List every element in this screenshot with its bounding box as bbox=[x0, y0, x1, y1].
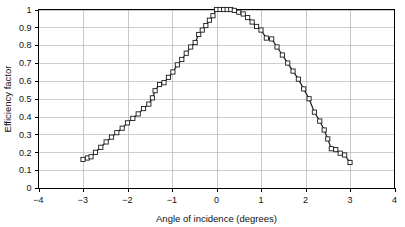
data-point-marker bbox=[153, 89, 157, 93]
data-point-marker bbox=[93, 150, 97, 154]
data-point-marker bbox=[343, 153, 347, 157]
data-point-marker bbox=[291, 69, 295, 73]
data-point-marker bbox=[141, 106, 145, 110]
data-point-marker bbox=[348, 160, 352, 164]
data-point-marker bbox=[175, 63, 179, 67]
y-tick-label: 0.3 bbox=[19, 130, 32, 140]
data-point-marker bbox=[204, 23, 208, 27]
data-point-marker bbox=[302, 87, 306, 91]
data-point-marker bbox=[89, 155, 93, 159]
chart-background bbox=[0, 0, 405, 227]
data-point-marker bbox=[120, 126, 124, 130]
data-point-marker bbox=[162, 81, 166, 85]
data-point-marker bbox=[166, 75, 170, 79]
data-point-marker bbox=[307, 97, 311, 101]
x-tick-label: −4 bbox=[33, 195, 43, 205]
y-tick-label: 0.9 bbox=[19, 23, 32, 33]
y-axis-title: Efficiency factor bbox=[2, 66, 13, 133]
x-tick-label: −1 bbox=[167, 195, 177, 205]
data-point-marker bbox=[189, 45, 193, 49]
data-point-marker bbox=[254, 24, 258, 28]
data-point-marker bbox=[237, 10, 241, 14]
chart-figure: 00.10.20.30.40.50.60.70.80.91 −4−3−2−101… bbox=[0, 0, 405, 227]
y-tick-label: 0.7 bbox=[19, 58, 32, 68]
data-point-marker bbox=[136, 112, 140, 116]
data-point-marker bbox=[259, 28, 263, 32]
data-point-marker bbox=[318, 119, 322, 123]
data-point-marker bbox=[296, 77, 300, 81]
data-point-marker bbox=[275, 45, 279, 49]
data-point-marker bbox=[322, 128, 326, 132]
data-point-marker bbox=[312, 110, 316, 114]
y-tick-label: 0.4 bbox=[19, 112, 32, 122]
data-point-marker bbox=[125, 121, 129, 125]
x-tick-label: 2 bbox=[303, 195, 308, 205]
data-point-marker bbox=[270, 37, 274, 41]
x-tick-label: −2 bbox=[122, 195, 132, 205]
data-point-marker bbox=[334, 148, 338, 152]
data-point-marker bbox=[326, 137, 330, 141]
y-tick-label: 0.1 bbox=[19, 165, 32, 175]
x-tick-label: 0 bbox=[214, 195, 219, 205]
data-point-marker bbox=[232, 8, 236, 12]
data-point-marker bbox=[193, 40, 197, 44]
data-point-marker bbox=[280, 53, 284, 57]
efficiency-vs-angle-chart: 00.10.20.30.40.50.60.70.80.91 −4−3−2−101… bbox=[0, 0, 405, 227]
data-point-marker bbox=[211, 14, 215, 18]
data-point-marker bbox=[338, 151, 342, 155]
data-point-marker bbox=[147, 102, 151, 106]
y-tick-label: 0.2 bbox=[19, 148, 32, 158]
y-tick-label: 0.5 bbox=[19, 94, 32, 104]
data-point-marker bbox=[286, 61, 290, 65]
data-point-marker bbox=[246, 15, 250, 19]
data-point-marker bbox=[171, 70, 175, 74]
data-point-marker bbox=[241, 12, 245, 16]
data-point-marker bbox=[250, 20, 254, 24]
data-point-marker bbox=[157, 82, 161, 86]
data-point-marker bbox=[207, 18, 211, 22]
data-point-marker bbox=[99, 145, 103, 149]
y-tick-label: 1 bbox=[26, 5, 31, 15]
x-tick-label: −3 bbox=[78, 195, 88, 205]
data-point-marker bbox=[109, 135, 113, 139]
data-point-marker bbox=[329, 147, 333, 151]
data-point-marker bbox=[81, 157, 85, 161]
y-tick-label: 0.8 bbox=[19, 40, 32, 50]
data-point-marker bbox=[150, 96, 154, 100]
x-tick-label: 3 bbox=[347, 195, 352, 205]
y-tick-label: 0.6 bbox=[19, 76, 32, 86]
data-point-marker bbox=[197, 32, 201, 36]
y-tick-label: 0 bbox=[26, 183, 31, 193]
data-point-marker bbox=[180, 57, 184, 61]
data-point-marker bbox=[104, 140, 108, 144]
x-tick-label: 4 bbox=[392, 195, 397, 205]
data-point-marker bbox=[200, 28, 204, 32]
x-tick-label: 1 bbox=[258, 195, 263, 205]
data-point-marker bbox=[131, 116, 135, 120]
data-point-marker bbox=[264, 36, 268, 40]
x-axis-title: Angle of incidence (degrees) bbox=[156, 213, 277, 224]
data-point-marker bbox=[115, 131, 119, 135]
data-point-marker bbox=[184, 51, 188, 55]
